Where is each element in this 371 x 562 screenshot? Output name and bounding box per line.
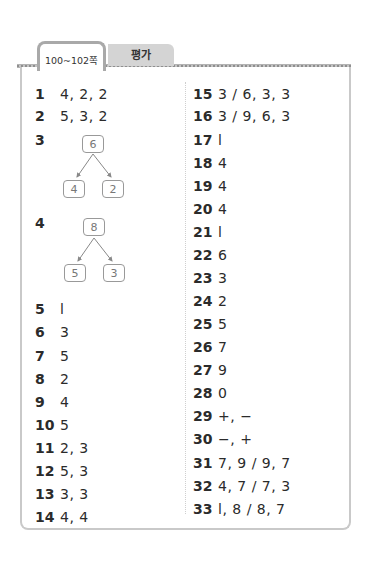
- question-number: 28: [193, 385, 218, 401]
- answer-row-24: 24 2: [193, 291, 227, 311]
- answer-text: 5, 3: [60, 463, 89, 479]
- question-number: 30: [193, 431, 218, 447]
- answer-row-20: 20 4: [193, 199, 227, 219]
- answer-row-21: 21 l: [193, 222, 222, 242]
- answer-row-25: 25 5: [193, 314, 227, 334]
- tree-3-top-value: 6: [90, 138, 97, 151]
- question-number: 18: [193, 155, 218, 171]
- answer-text: l: [60, 301, 64, 317]
- answer-row-19: 19 4: [193, 176, 227, 196]
- question-number: 11: [35, 440, 60, 456]
- question-number: 24: [193, 293, 218, 309]
- question-number: 29: [193, 408, 218, 424]
- answer-row-5: 5 l: [35, 299, 64, 319]
- question-number: 25: [193, 316, 218, 332]
- tab-pages[interactable]: 100~102쪽: [37, 41, 106, 71]
- answer-row-28: 28 0: [193, 383, 227, 403]
- answer-text: l, 8 / 8, 7: [218, 501, 286, 517]
- tree-4-left-box: 5: [64, 264, 86, 282]
- answer-text: −, +: [218, 431, 252, 447]
- answer-text: 7: [218, 339, 227, 355]
- question-number: 23: [193, 270, 218, 286]
- question-number: 21: [193, 224, 218, 240]
- answer-text: 3 / 6, 3, 3: [218, 86, 291, 102]
- answer-text: 3 / 9, 6, 3: [218, 108, 291, 124]
- answer-row-4: 4: [35, 213, 60, 233]
- answer-row-17: 17 l: [193, 130, 222, 150]
- answer-text: 6: [218, 247, 227, 263]
- answer-row-11: 11 2, 3: [35, 438, 89, 458]
- answer-text: +, −: [218, 408, 252, 424]
- answer-row-31: 31 7, 9 / 9, 7: [193, 453, 291, 473]
- question-number: 6: [35, 324, 60, 340]
- question-number: 9: [35, 394, 60, 410]
- tree-4-top-box: 8: [83, 218, 105, 236]
- answer-text: 4: [60, 394, 69, 410]
- answer-row-15: 15 3 / 6, 3, 3: [193, 84, 291, 104]
- answer-text: 4: [218, 155, 227, 171]
- answer-text: 3, 3: [60, 486, 89, 502]
- answer-row-6: 6 3: [35, 322, 69, 342]
- question-number: 5: [35, 301, 60, 317]
- answer-row-27: 27 9: [193, 360, 227, 380]
- question-number: 8: [35, 371, 60, 387]
- answer-text: 7, 9 / 9, 7: [218, 455, 291, 471]
- question-number: 20: [193, 201, 218, 217]
- answer-text: l: [218, 132, 222, 148]
- answer-text: 2: [218, 293, 227, 309]
- question-number: 4: [35, 215, 60, 231]
- question-number: 27: [193, 362, 218, 378]
- tab-pages-label: 100~102쪽: [45, 53, 98, 67]
- answer-row-12: 12 5, 3: [35, 461, 89, 481]
- tree-3-left-value: 4: [71, 183, 78, 196]
- answer-row-16: 16 3 / 9, 6, 3: [193, 106, 291, 126]
- answer-row-14: 14 4, 4: [35, 507, 89, 527]
- tab-evaluation-label: 평가: [131, 46, 151, 62]
- answer-text: 0: [218, 385, 227, 401]
- answer-text: 3: [60, 324, 69, 340]
- answer-text: 2: [60, 371, 69, 387]
- tab-evaluation[interactable]: 평가: [108, 44, 174, 66]
- question-number: 22: [193, 247, 218, 263]
- answer-row-26: 26 7: [193, 337, 227, 357]
- answer-text: 2, 3: [60, 440, 89, 456]
- answer-text: 5: [60, 348, 69, 364]
- tree-4-right-value: 3: [111, 267, 118, 280]
- answer-text: l: [218, 224, 222, 240]
- answer-row-32: 32 4, 7 / 7, 3: [193, 476, 291, 496]
- question-number: 19: [193, 178, 218, 194]
- answer-text: 3: [218, 270, 227, 286]
- answer-row-18: 18 4: [193, 153, 227, 173]
- answer-row-13: 13 3, 3: [35, 484, 89, 504]
- answer-text: 5: [218, 316, 227, 332]
- question-number: 13: [35, 486, 60, 502]
- tree-3-right-value: 2: [110, 183, 117, 196]
- question-number: 7: [35, 348, 60, 364]
- tree-4-right-box: 3: [103, 264, 125, 282]
- answer-row-7: 7 5: [35, 346, 69, 366]
- tree-4-left-value: 5: [72, 267, 79, 280]
- answer-row-9: 9 4: [35, 392, 69, 412]
- answer-text: 4, 7 / 7, 3: [218, 478, 291, 494]
- answer-row-33: 33 l, 8 / 8, 7: [193, 499, 286, 519]
- question-number: 31: [193, 455, 218, 471]
- answer-row-30: 30 −, +: [193, 429, 252, 449]
- tree-3-right-box: 2: [102, 180, 124, 198]
- tree-3-left-box: 4: [63, 180, 85, 198]
- question-number: 32: [193, 478, 218, 494]
- answer-text: 5: [60, 417, 69, 433]
- question-number: 33: [193, 501, 218, 517]
- question-number: 17: [193, 132, 218, 148]
- tree-3-top-box: 6: [82, 135, 104, 153]
- question-number: 26: [193, 339, 218, 355]
- tree-4-top-value: 8: [91, 221, 98, 234]
- answer-row-10: 10 5: [35, 415, 69, 435]
- question-number: 12: [35, 463, 60, 479]
- answer-text: 4, 4: [60, 509, 89, 525]
- answer-text: 4: [218, 201, 227, 217]
- answer-row-8: 8 2: [35, 369, 69, 389]
- question-number: 14: [35, 509, 60, 525]
- answer-text: 9: [218, 362, 227, 378]
- answer-row-22: 22 6: [193, 245, 227, 265]
- question-number: 16: [193, 108, 218, 124]
